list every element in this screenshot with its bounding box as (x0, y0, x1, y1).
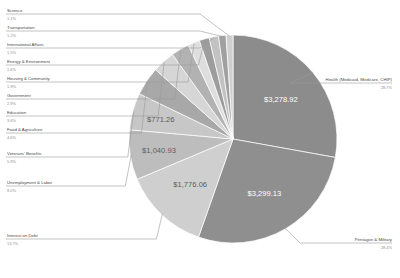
slice-callout-percent: 1.5% (7, 50, 16, 55)
slice-callout-label: Education (7, 110, 27, 115)
leader-line (6, 31, 222, 37)
slice-callout-label: Interest on Debt (7, 233, 38, 238)
slice-callout-label: Science (7, 8, 23, 13)
slice-callout-label: International Affairs (7, 42, 44, 47)
slice-callout-label: Health (Medicaid, Medicare, CHIP) (326, 77, 393, 82)
slice-callout-percent: 1.6% (7, 67, 16, 72)
slice-callout-percent: 4.6% (7, 135, 16, 140)
slice-callout-percent: 28.7% (381, 85, 393, 90)
slice-callout-label: Housing & Community (7, 76, 51, 81)
slice-callout-percent: 28.4% (381, 245, 393, 250)
slice-callout-label: Transportation (7, 25, 35, 30)
pie-chart-svg: $3,278.92$3,299.13$1,776.06$1,040.93$771… (0, 0, 400, 278)
slice-callout-percent: 1.2% (7, 33, 16, 38)
slice-callout-label: Unemployment & Labor (7, 180, 53, 185)
slice-callout-percent: 2.9% (7, 101, 16, 106)
slice-callout-percent: 8.0% (7, 188, 16, 193)
slice-callout-percent: 13.7% (7, 241, 19, 246)
slice-value-label: $1,040.93 (142, 146, 176, 155)
slice-callout-percent: 3.6% (7, 118, 16, 123)
slice-callout-label: Pentagon & Military (355, 237, 393, 242)
leader-line (6, 14, 230, 36)
slice-value-label: $3,278.92 (264, 95, 298, 104)
slice-callout-label: Food & Agriculture (7, 127, 43, 132)
slice-callout-percent: 1.1% (7, 16, 16, 21)
slice-callout-label: Government (7, 93, 31, 98)
slice-callout-label: Energy & Environment (7, 59, 51, 64)
slice-value-label: $3,299.13 (248, 189, 282, 198)
pie-chart: $3,278.92$3,299.13$1,776.06$1,040.93$771… (0, 0, 400, 278)
slice-callout-percent: 1.9% (7, 84, 16, 89)
slice-callout-label: Veterans' Benefits (7, 151, 42, 156)
slice-callout-percent: 5.9% (7, 159, 16, 164)
slice-value-label: $1,776.06 (173, 180, 207, 189)
leader-line (6, 82, 147, 133)
